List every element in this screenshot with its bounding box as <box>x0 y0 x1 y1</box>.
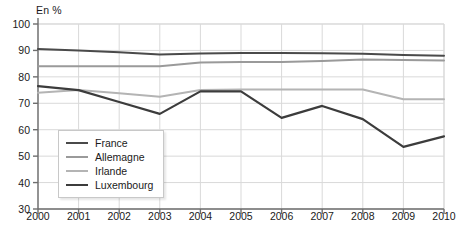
x-tick-label: 2002 <box>108 210 131 222</box>
x-tick-label: 2003 <box>148 210 171 222</box>
x-tick-label: 2008 <box>351 210 374 222</box>
legend-item-france: France <box>66 136 153 150</box>
x-tick-label: 2000 <box>26 210 49 222</box>
x-tick-label: 2006 <box>270 210 293 222</box>
x-tick-label: 2007 <box>311 210 334 222</box>
legend-item-luxembourg: Luxembourg <box>66 178 153 192</box>
legend-label: France <box>95 136 128 150</box>
x-tick-label: 2004 <box>189 210 212 222</box>
legend-label: Luxembourg <box>95 178 153 192</box>
legend-item-allemagne: Allemagne <box>66 150 153 164</box>
legend-swatch-icon <box>66 156 88 158</box>
legend-item-irlande: Irlande <box>66 164 153 178</box>
legend-swatch-icon <box>66 142 88 144</box>
x-tick-label: 2001 <box>67 210 90 222</box>
legend-label: Allemagne <box>95 150 145 164</box>
x-tick-label: 2009 <box>392 210 415 222</box>
legend-swatch-icon <box>66 170 88 172</box>
x-tick-label: 2010 <box>432 210 455 222</box>
legend-label: Irlande <box>95 164 127 178</box>
chart-legend: FranceAllemagneIrlandeLuxembourg <box>58 130 164 198</box>
legend-swatch-icon <box>66 184 88 186</box>
x-tick-label: 2005 <box>229 210 252 222</box>
